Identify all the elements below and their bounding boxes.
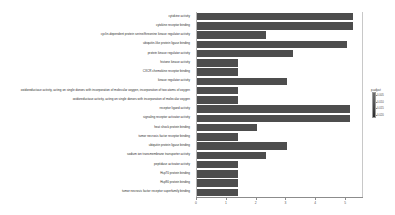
bar-row[interactable] xyxy=(196,87,363,94)
y-axis-label: Hsp90 protein binding xyxy=(160,181,190,185)
x-tick-label: 1 xyxy=(225,201,227,205)
bar[interactable] xyxy=(196,179,238,186)
y-axis-label: ubiquitin protein ligase binding xyxy=(149,144,190,148)
x-axis-ticks: 012345 xyxy=(196,197,363,213)
bar-row[interactable] xyxy=(196,105,363,112)
bar-row[interactable] xyxy=(196,50,363,57)
bar-row[interactable] xyxy=(196,68,363,75)
bar[interactable] xyxy=(196,13,353,20)
bar-row[interactable] xyxy=(196,170,363,177)
x-tick-mark xyxy=(285,197,286,200)
bar[interactable] xyxy=(196,22,353,29)
x-tick-label: 0 xyxy=(195,201,197,205)
y-axis-label: ubiquitin-like protein ligase binding xyxy=(143,42,190,46)
bar[interactable] xyxy=(196,68,238,75)
bar[interactable] xyxy=(196,50,293,57)
bar[interactable] xyxy=(196,105,350,112)
bar[interactable] xyxy=(196,96,238,103)
bar-row[interactable] xyxy=(196,179,363,186)
bar-row[interactable] xyxy=(196,31,363,38)
bar[interactable] xyxy=(196,41,347,48)
x-tick-mark xyxy=(315,197,316,200)
y-axis-label: Hsp70 protein binding xyxy=(160,172,190,176)
y-axis-label: protein kinase regulator activity xyxy=(148,52,190,56)
bar[interactable] xyxy=(196,78,287,85)
x-tick-label: 4 xyxy=(314,201,316,205)
bar-row[interactable] xyxy=(196,41,363,48)
x-tick-label: 2 xyxy=(255,201,257,205)
bar[interactable] xyxy=(196,124,257,131)
y-axis-label: receptor ligand activity xyxy=(159,107,190,111)
x-tick-label: 3 xyxy=(285,201,287,205)
legend-colorbar: p.adjust 0.0050.0100.0150.020 xyxy=(371,88,393,120)
x-tick-label: 5 xyxy=(344,201,346,205)
bar-row[interactable] xyxy=(196,96,363,103)
y-axis-label: cytokine receptor binding xyxy=(156,24,190,28)
legend-tick-label: 0.020 xyxy=(377,113,384,116)
bar[interactable] xyxy=(196,59,238,66)
legend-tick-label: 0.015 xyxy=(377,107,384,110)
bar[interactable] xyxy=(196,152,266,159)
bar[interactable] xyxy=(196,161,238,168)
bar[interactable] xyxy=(196,142,287,149)
bar-row[interactable] xyxy=(196,59,363,66)
y-axis-label: signaling receptor activator activity xyxy=(143,116,190,120)
y-axis-label: histone kinase activity xyxy=(160,61,190,65)
bar-row[interactable] xyxy=(196,189,363,196)
bar-row[interactable] xyxy=(196,22,363,29)
bar[interactable] xyxy=(196,189,238,196)
plot-area xyxy=(196,12,363,197)
x-tick-mark xyxy=(196,197,197,200)
y-axis-label: CXCR chemokine receptor binding xyxy=(143,70,190,74)
y-axis-label: kinase regulator activity xyxy=(158,79,190,83)
y-axis-line xyxy=(196,12,197,198)
legend-tick-label: 0.005 xyxy=(377,94,384,97)
x-tick-mark xyxy=(226,197,227,200)
y-axis-label: oxidoreductase activity, acting on singl… xyxy=(73,98,190,102)
y-axis-label: sodium ion transmembrane transporter act… xyxy=(127,153,190,157)
chart-root: cytokine activitycytokine receptor bindi… xyxy=(0,0,395,215)
bar[interactable] xyxy=(196,87,238,94)
bar-row[interactable] xyxy=(196,152,363,159)
y-axis-label: peptidase activator activity xyxy=(154,163,190,167)
x-tick-mark xyxy=(256,197,257,200)
x-tick-mark xyxy=(345,197,346,200)
bar-row[interactable] xyxy=(196,142,363,149)
y-axis-label: oxidoreductase activity, acting on singl… xyxy=(21,89,190,93)
y-axis-label: tumor necrosis factor receptor superfami… xyxy=(122,190,190,194)
bar-row[interactable] xyxy=(196,13,363,20)
bar-row[interactable] xyxy=(196,124,363,131)
bar-row[interactable] xyxy=(196,115,363,122)
y-axis-label: heat shock protein binding xyxy=(154,126,190,130)
y-axis-label: tumor necrosis factor receptor binding xyxy=(138,135,190,139)
y-axis-labels: cytokine activitycytokine receptor bindi… xyxy=(0,12,193,197)
bar[interactable] xyxy=(196,170,238,177)
bar-row[interactable] xyxy=(196,133,363,140)
y-axis-label: cytokine activity xyxy=(168,15,190,19)
bar-row[interactable] xyxy=(196,161,363,168)
bar-row[interactable] xyxy=(196,78,363,85)
legend-tick-labels: 0.0050.0100.0150.020 xyxy=(377,92,393,118)
y-axis-label: cyclin-dependent protein serine/threonin… xyxy=(101,33,190,37)
bar-series xyxy=(196,12,362,197)
bar[interactable] xyxy=(196,31,266,38)
legend-tick-label: 0.010 xyxy=(377,100,384,103)
bar[interactable] xyxy=(196,133,238,140)
bar[interactable] xyxy=(196,115,350,122)
